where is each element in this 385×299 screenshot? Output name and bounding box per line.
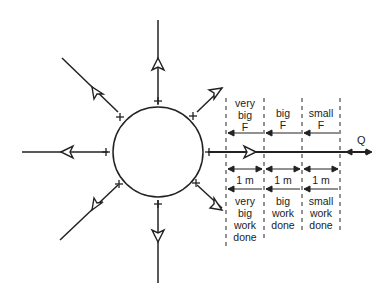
label-line: work bbox=[227, 219, 263, 231]
distance-label-1: 1 m bbox=[227, 174, 263, 186]
label-line: done bbox=[227, 231, 263, 243]
arrowhead-upper-left-icon bbox=[92, 87, 103, 99]
label-line: F bbox=[265, 119, 301, 131]
distance-label-3: 1 m bbox=[303, 174, 339, 186]
field-line-upper-left bbox=[62, 58, 118, 112]
arrowhead-lower-right-icon bbox=[210, 198, 222, 210]
force-label-big: big F bbox=[265, 107, 301, 131]
plus-sign-right bbox=[205, 148, 213, 156]
plus-sign-upper-right bbox=[189, 112, 197, 120]
label-line: work bbox=[303, 207, 339, 219]
plus-sign-bottom bbox=[154, 200, 162, 208]
work-label-very-big: very big work done bbox=[227, 195, 263, 243]
label-line: F bbox=[227, 121, 263, 133]
plus-sign-top bbox=[154, 97, 162, 105]
plus-sign-left bbox=[102, 148, 110, 156]
label-line: very bbox=[227, 97, 263, 109]
label-line: big bbox=[265, 195, 301, 207]
label-line: big bbox=[227, 109, 263, 121]
label-line: F bbox=[303, 119, 339, 131]
label-line: small bbox=[303, 107, 339, 119]
plus-sign-upper-left bbox=[116, 113, 124, 121]
field-line-lower-left bbox=[60, 185, 118, 240]
work-label-big: big work done bbox=[265, 195, 301, 231]
label-line: big bbox=[265, 107, 301, 119]
force-label-very-big: very big F bbox=[227, 97, 263, 133]
label-line: big bbox=[227, 207, 263, 219]
label-line: very bbox=[227, 195, 263, 207]
label-line: done bbox=[265, 219, 301, 231]
distance-label-2: 1 m bbox=[265, 174, 301, 186]
charged-sphere bbox=[113, 107, 203, 197]
work-label-small: small work done bbox=[303, 195, 339, 231]
field-diagram bbox=[0, 0, 385, 299]
force-label-small: small F bbox=[303, 107, 339, 131]
test-charge-label: Q bbox=[357, 134, 366, 146]
label-line: small bbox=[303, 195, 339, 207]
label-line: work bbox=[265, 207, 301, 219]
label-line: done bbox=[303, 219, 339, 231]
arrowhead-upper-right-icon bbox=[209, 88, 222, 99]
